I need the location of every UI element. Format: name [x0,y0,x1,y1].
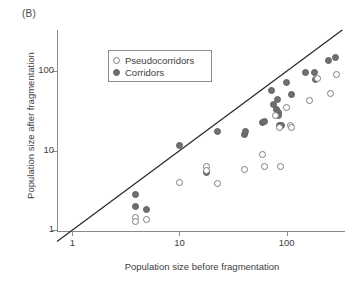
filled-circle-icon [113,69,120,76]
data-point-pseudocorridors [276,124,283,131]
y-tick-label-10: 10 [14,144,54,155]
data-point-pseudocorridors [327,90,334,97]
data-point-corridors [268,87,275,94]
x-axis-label: Population size before fragmentation [57,261,347,272]
data-point-pseudocorridors [277,163,284,170]
data-point-corridors [132,203,139,210]
legend-item-pseudocorridors: Pseudocorridors [113,54,207,66]
data-point-pseudocorridors [214,180,221,187]
y-axis-label: Population size after fragmentation [25,26,36,226]
x-tick-label-1: 1 [52,237,92,248]
legend-item-corridors: Corridors [113,66,207,78]
data-point-corridors [274,96,281,103]
data-point-pseudocorridors [272,112,279,119]
legend-label-pseudocorridors: Pseudocorridors [125,55,194,66]
x-tick-label-10: 10 [159,237,199,248]
legend-label-corridors: Corridors [125,67,164,78]
open-circle-icon [113,57,120,64]
data-point-pseudocorridors [176,179,183,186]
data-point-corridors [332,54,339,61]
panel-label: (B) [22,8,36,19]
figure-panel: (B) Population size after fragmentation … [0,0,361,285]
data-point-pseudocorridors [241,166,248,173]
data-point-pseudocorridors [261,163,268,170]
data-point-pseudocorridors [132,218,139,225]
x-tick-label-100: 100 [267,237,307,248]
legend-box: Pseudocorridors Corridors [108,50,212,82]
data-point-corridors [214,128,221,135]
data-point-corridors [242,128,249,135]
y-tick-label-1: 1 [14,223,54,234]
y-tick-label-100: 100 [14,64,54,75]
